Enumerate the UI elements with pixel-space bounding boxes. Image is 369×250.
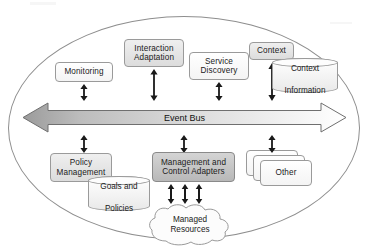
scan-artifact — [330, 22, 352, 24]
datastore-context-information-label: Context Information — [285, 56, 326, 96]
component-other[interactable]: Other — [260, 160, 312, 186]
connector-adapters-to-resources-1 — [166, 183, 176, 205]
connector-bus-to-policy-management — [78, 134, 90, 154]
component-management-and-control-adapters[interactable]: Management and Control Adapters — [152, 152, 235, 182]
component-other-label: Other — [274, 168, 299, 177]
connector-bus-to-adapters — [178, 134, 190, 154]
component-policy-management-label-1: Policy — [68, 158, 94, 167]
diagram-canvas: Monitoring Interaction Adaptation Servic… — [0, 0, 369, 250]
datastore-goals-and-policies-label-2: Policies — [100, 200, 137, 213]
connector-interaction-adaptation-to-bus — [148, 68, 160, 102]
component-monitoring[interactable]: Monitoring — [55, 62, 113, 82]
component-adapters-label-1: Management and — [159, 158, 228, 167]
datastore-goals-and-policies-label-1: Goals and — [100, 178, 137, 191]
component-interaction-adaptation-label-1: Interaction — [132, 44, 175, 53]
component-service-discovery-label-1: Service — [203, 57, 235, 66]
component-service-discovery[interactable]: Service Discovery — [189, 52, 249, 80]
scan-artifact — [30, 2, 56, 5]
component-interaction-adaptation-label-2: Adaptation — [132, 53, 176, 62]
component-service-discovery-label-2: Discovery — [199, 66, 240, 75]
datastore-context-information[interactable]: Context Information — [272, 58, 338, 93]
connector-monitoring-to-bus — [78, 83, 90, 102]
component-adapters-label-2: Control Adapters — [160, 167, 227, 176]
datastore-context-information-label-2: Information — [285, 82, 326, 95]
datastore-goals-and-policies[interactable]: Goals and Policies — [88, 176, 150, 211]
datastore-context-information-label-1: Context — [285, 60, 326, 73]
event-bus[interactable]: Event Bus — [22, 101, 347, 134]
connector-adapters-to-resources-3 — [194, 183, 204, 205]
connector-bus-to-other — [266, 134, 278, 154]
component-monitoring-label: Monitoring — [62, 67, 105, 76]
managed-resources-cloud[interactable]: Managed Resources — [146, 203, 234, 246]
datastore-goals-and-policies-label: Goals and Policies — [100, 174, 137, 214]
connector-service-discovery-to-bus — [213, 81, 225, 102]
component-interaction-adaptation[interactable]: Interaction Adaptation — [124, 39, 184, 67]
connector-adapters-to-resources-2 — [180, 183, 190, 205]
component-context-label: Context — [255, 46, 288, 55]
